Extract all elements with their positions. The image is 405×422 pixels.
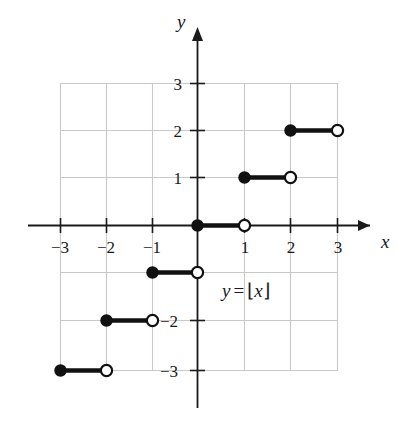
x-axis-arrowhead: [358, 220, 370, 231]
open-endpoint-dot: [285, 172, 296, 183]
closed-endpoint-dot: [146, 266, 158, 278]
equation-equals-sign: =: [230, 280, 247, 301]
x-axis-label: x: [381, 232, 389, 251]
equation-annotation: y=⌊x⌋: [222, 281, 270, 300]
closed-endpoint-dot: [191, 219, 203, 231]
y-tick-label: 1: [152, 170, 182, 187]
y-tick-label: 3: [152, 76, 182, 93]
floor-close-bracket-icon: ⌋: [263, 280, 270, 301]
y-axis-label: y: [177, 12, 185, 31]
open-endpoint-dot: [239, 220, 250, 231]
x-tick-label: −1: [137, 239, 167, 256]
x-tick-label: 1: [230, 239, 260, 256]
y-tick-label: 2: [152, 123, 182, 140]
y-axis-arrowhead: [192, 27, 203, 41]
open-endpoint-dot: [332, 125, 343, 136]
closed-endpoint-dot: [238, 171, 250, 183]
equation-x-symbol: x: [254, 280, 262, 301]
x-tick-label: 2: [276, 239, 306, 256]
y-tick-label: −3: [148, 363, 178, 380]
step-function-graph-figure: y x −3 −2 −1 1 2 3 3 2 1 −2 −3 y=⌊x⌋: [0, 0, 405, 422]
closed-endpoint-dot: [100, 314, 112, 326]
y-tick-label: −2: [148, 313, 178, 330]
x-tick-label: −2: [91, 239, 121, 256]
closed-endpoint-dot: [284, 124, 296, 136]
open-endpoint-dot: [192, 267, 203, 278]
graph-canvas: [0, 0, 405, 422]
open-endpoint-dot: [101, 365, 112, 376]
x-tick-label: 3: [323, 239, 353, 256]
x-tick-label: −3: [45, 239, 75, 256]
closed-endpoint-dot: [54, 364, 66, 376]
